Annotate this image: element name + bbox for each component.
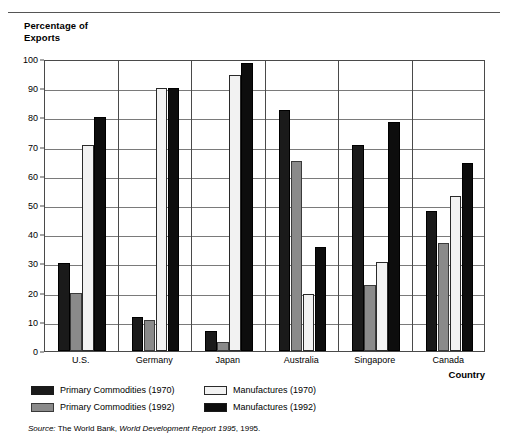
y-axis-tick-label: 20 (28, 289, 38, 298)
legend-item-manufactures-1970: Manufactures (1970) (204, 384, 316, 396)
y-axis-tick-label: 70 (28, 143, 38, 152)
legend-item-primary-commodities-1970: Primary Commodities (1970) (31, 384, 175, 396)
legend-label: Primary Commodities (1992) (60, 401, 175, 413)
x-axis-title: Country (449, 369, 485, 380)
source-note: Source: The World Bank, World Developmen… (28, 424, 260, 434)
chart-figure: Percentage of Exports 010203040506070809… (0, 0, 507, 445)
bar (82, 145, 94, 351)
bar (70, 293, 82, 351)
bar (291, 161, 303, 351)
bar-group (339, 61, 413, 351)
bar (217, 342, 229, 351)
x-axis-tick-label: Japan (215, 355, 240, 366)
y-axis-tick-label: 100 (23, 56, 38, 65)
legend-row: Primary Commodities (1992) Manufactures … (31, 401, 361, 418)
bar (364, 285, 376, 351)
plot-area (44, 60, 485, 352)
bar (205, 331, 217, 351)
legend-label: Primary Commodities (1970) (60, 384, 175, 396)
legend-swatch-icon (204, 386, 227, 395)
chart-legend: Primary Commodities (1970) Manufactures … (31, 384, 361, 418)
x-axis-tick-labels: U.S.GermanyJapanAustraliaSingaporeCanada (44, 355, 485, 369)
x-axis-tick-label: Germany (136, 355, 173, 366)
bar-group (266, 61, 340, 351)
bar-group (119, 61, 193, 351)
source-publisher: The World Bank, (56, 424, 120, 433)
bar (315, 247, 327, 351)
bar (303, 294, 315, 351)
y-axis-tick-label: 90 (28, 85, 38, 94)
bar (144, 320, 156, 351)
y-axis-tick-label: 80 (28, 114, 38, 123)
y-axis-tick-label: 40 (28, 231, 38, 240)
y-axis-title: Percentage of Exports (24, 20, 88, 43)
bar (376, 262, 388, 351)
top-divider (8, 12, 500, 13)
bar (279, 110, 291, 351)
bar (132, 317, 144, 351)
x-axis-tick-label: Canada (432, 355, 464, 366)
source-suffix: , 1995. (236, 424, 260, 433)
bar (168, 88, 180, 351)
bar (438, 243, 450, 351)
bar (94, 117, 106, 351)
bar (229, 75, 241, 351)
legend-swatch-icon (204, 403, 227, 412)
legend-item-manufactures-1992: Manufactures (1992) (204, 401, 316, 413)
legend-row: Primary Commodities (1970) Manufactures … (31, 384, 361, 401)
legend-swatch-icon (31, 403, 54, 412)
y-axis-tick-label: 60 (28, 172, 38, 181)
y-axis-tick-labels: 0102030405060708090100 (0, 60, 44, 352)
source-prefix: Source: (28, 424, 56, 433)
y-axis-tick-label: 30 (28, 260, 38, 269)
bar (426, 211, 438, 351)
y-axis-tick-label: 10 (28, 318, 38, 327)
y-axis-tick-label: 50 (28, 202, 38, 211)
bar (462, 163, 474, 351)
bar-group (45, 61, 119, 351)
legend-swatch-icon (31, 386, 54, 395)
source-report-title: World Development Report 1995 (119, 424, 236, 433)
bar-group (192, 61, 266, 351)
legend-label: Manufactures (1970) (233, 384, 316, 396)
bar (58, 263, 70, 351)
x-axis-tick-label: U.S. (72, 355, 90, 366)
bar-groups (45, 61, 484, 351)
bar (352, 145, 364, 351)
y-axis-tick-label: 0 (33, 348, 38, 357)
bar (241, 63, 253, 351)
x-axis-tick-label: Australia (284, 355, 319, 366)
legend-label: Manufactures (1992) (233, 401, 316, 413)
legend-item-primary-commodities-1992: Primary Commodities (1992) (31, 401, 175, 413)
bar (450, 196, 462, 351)
x-axis-tick-label: Singapore (354, 355, 395, 366)
bar (388, 122, 400, 351)
bar (156, 88, 168, 351)
bar-group (413, 61, 487, 351)
